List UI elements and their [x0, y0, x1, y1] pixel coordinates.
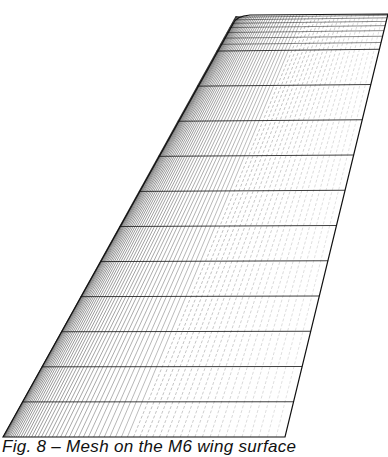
- mesh-lines: [3, 14, 388, 437]
- wing-mesh-figure: [0, 0, 388, 440]
- figure-caption: Fig. 8 – Mesh on the M6 wing surface: [2, 437, 296, 457]
